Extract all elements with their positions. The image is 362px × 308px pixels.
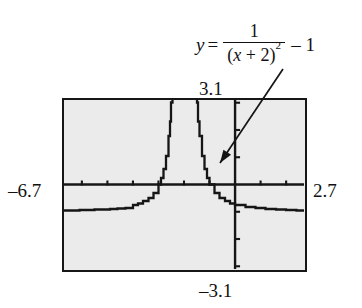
curve-right-branch [187, 100, 305, 211]
denominator-plus-two: + 2 [241, 45, 269, 65]
denominator-exponent: 2 [275, 39, 281, 51]
equation-minus-one: – 1 [285, 35, 315, 54]
equation-equals-sign: = [207, 35, 223, 54]
fraction-numerator: 1 [246, 22, 263, 42]
window-ymax-label: 3.1 [199, 79, 223, 98]
window-ymin-label: –3.1 [199, 281, 232, 300]
equation-fraction: 1 (x + 2)2 [223, 22, 285, 66]
function-curve-group [64, 100, 304, 211]
calculator-screen [62, 98, 307, 272]
curve-left-branch [64, 100, 182, 211]
fraction-denominator: (x + 2)2 [224, 43, 284, 66]
equation-label: y = 1 (x + 2)2 – 1 [196, 22, 315, 66]
axes-group [64, 100, 304, 269]
calculator-graph-figure: y = 1 (x + 2)2 – 1 3.1 –3.1 –6.7 2.7 [0, 0, 362, 308]
equation-lhs: y [196, 35, 207, 54]
window-xmax-label: 2.7 [313, 181, 337, 200]
window-xmin-label: –6.7 [8, 181, 41, 200]
graph-plot [64, 100, 304, 269]
